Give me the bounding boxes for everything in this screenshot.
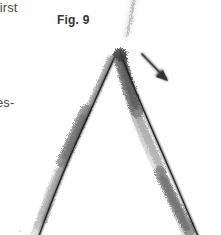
page-speck xyxy=(19,230,21,232)
right-arm-smudge xyxy=(112,52,194,235)
left-arm-smudge xyxy=(30,54,114,235)
pointer-arrow xyxy=(142,54,168,81)
figure-illustration xyxy=(0,0,221,235)
scanned-page: first es- Fig. 9 xyxy=(0,0,221,235)
